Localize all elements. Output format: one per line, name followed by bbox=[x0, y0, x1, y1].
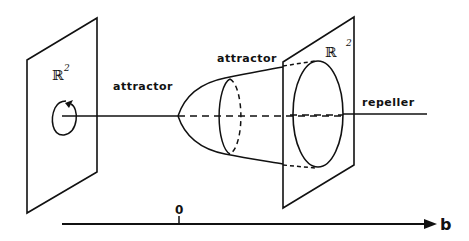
repeller-label: repeller bbox=[362, 96, 415, 109]
left-plane-exponent: 2 bbox=[63, 63, 70, 73]
zero-label: 0 bbox=[175, 203, 183, 217]
axis-label-b: b bbox=[440, 215, 451, 234]
right-plane-exponent: 2 bbox=[345, 38, 352, 48]
bifurcation-diagram: ℝ 2 ℝ 2 attractor attractor repeller 0 b bbox=[0, 0, 469, 241]
right-plane-label: ℝ bbox=[325, 44, 337, 60]
attractor-label-left: attractor bbox=[113, 80, 173, 93]
cone-top-edge bbox=[178, 67, 283, 116]
left-plane-label: ℝ bbox=[52, 67, 64, 83]
axis-arrowhead-icon bbox=[424, 219, 437, 229]
attractor-label-top: attractor bbox=[217, 52, 277, 65]
rotation-icon bbox=[52, 100, 76, 135]
cone-bottom-edge bbox=[178, 116, 283, 164]
